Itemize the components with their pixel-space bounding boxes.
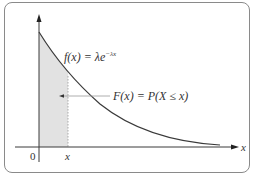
x-axis-arrow-icon: [231, 145, 239, 150]
x-marker-label: x: [65, 150, 70, 162]
pdf-label: f(x) = λe−λx: [64, 50, 116, 65]
figure-caption: [0, 181, 255, 189]
pdf-formula: f(x) = λe: [64, 50, 105, 64]
x-axis-label: x: [241, 141, 246, 153]
origin-label: 0: [30, 150, 36, 162]
pdf-exponent: −λx: [105, 50, 116, 58]
y-axis-arrow-icon: [37, 14, 42, 22]
cdf-label: F(x) = P(X ≤ x): [113, 89, 188, 104]
